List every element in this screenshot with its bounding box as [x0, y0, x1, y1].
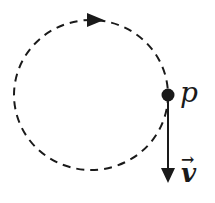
velocity-label: v — [181, 158, 196, 188]
velocity-arrowhead-icon — [161, 168, 175, 183]
point-p-dot — [162, 89, 175, 102]
point-p-label: p — [180, 76, 198, 109]
dashed-circular-path — [14, 20, 168, 170]
direction-arrow-icon — [87, 13, 104, 27]
